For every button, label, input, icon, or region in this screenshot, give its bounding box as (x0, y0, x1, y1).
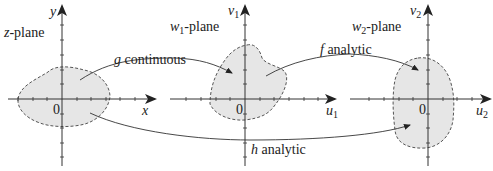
z-y-label: y (50, 5, 56, 19)
complex-mapping-diagram (0, 0, 493, 171)
z-x-label: x (142, 104, 148, 118)
z-plane-title: z-plane (4, 26, 44, 40)
w1-region (210, 45, 287, 120)
h-mapping-label: h analytic (251, 143, 306, 157)
w2-origin-label: 0 (419, 103, 426, 117)
f-mapping-label: f analytic (320, 43, 372, 57)
w1-v-label: v1 (228, 4, 239, 18)
f-arrow (266, 54, 418, 76)
w2-v-label: v2 (410, 4, 421, 18)
g-mapping-label: g continuous (114, 53, 186, 67)
w2-u-label: u2 (476, 104, 488, 118)
w2-plane-title: w2-plane (352, 20, 401, 34)
z-region (18, 67, 110, 127)
w1-u-label: u1 (326, 104, 338, 118)
z-origin-label: 0 (53, 103, 60, 117)
w1-origin-label: 0 (236, 103, 243, 117)
w1-plane-title: w1-plane (170, 20, 219, 34)
